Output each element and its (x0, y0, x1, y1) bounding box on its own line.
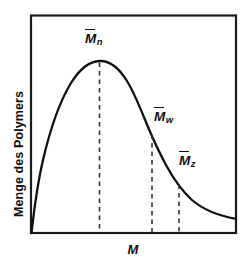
mn-symbol: M (85, 32, 96, 46)
marker-label-mw: Mw (154, 110, 173, 125)
mw-subscript: w (166, 114, 173, 125)
mz-symbol: M (179, 154, 190, 168)
marker-label-mn: Mn (85, 32, 102, 47)
plot-canvas (0, 0, 250, 269)
x-axis-label: M (0, 242, 250, 257)
figure-background (0, 0, 250, 269)
mz-subscript: z (191, 158, 196, 169)
molar-mass-distribution-figure: Mn Mw Mz Menge des Polymers M (0, 0, 250, 269)
mw-symbol: M (154, 110, 165, 124)
mn-subscript: n (97, 36, 103, 47)
y-axis-label: Menge des Polymers (12, 84, 26, 224)
marker-label-mz: Mz (179, 154, 195, 169)
